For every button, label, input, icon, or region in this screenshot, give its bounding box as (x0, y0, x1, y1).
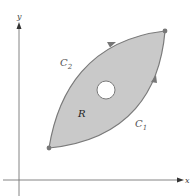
region-label: R (77, 108, 86, 119)
x-axis-label: x (185, 176, 190, 185)
c2-label: C2 (60, 57, 73, 71)
region-diagram: x y C2 C1 R (0, 0, 191, 196)
end-point (163, 29, 168, 34)
c1-label-sub: 1 (143, 124, 147, 132)
start-point (47, 146, 52, 151)
c1-label: C1 (135, 118, 147, 132)
y-axis-label: y (16, 12, 22, 21)
hole-boundary (97, 81, 115, 99)
c2-label-sub: 2 (67, 63, 73, 71)
y-axis-arrow-icon (17, 22, 22, 29)
x-axis-arrow-icon (177, 178, 184, 183)
